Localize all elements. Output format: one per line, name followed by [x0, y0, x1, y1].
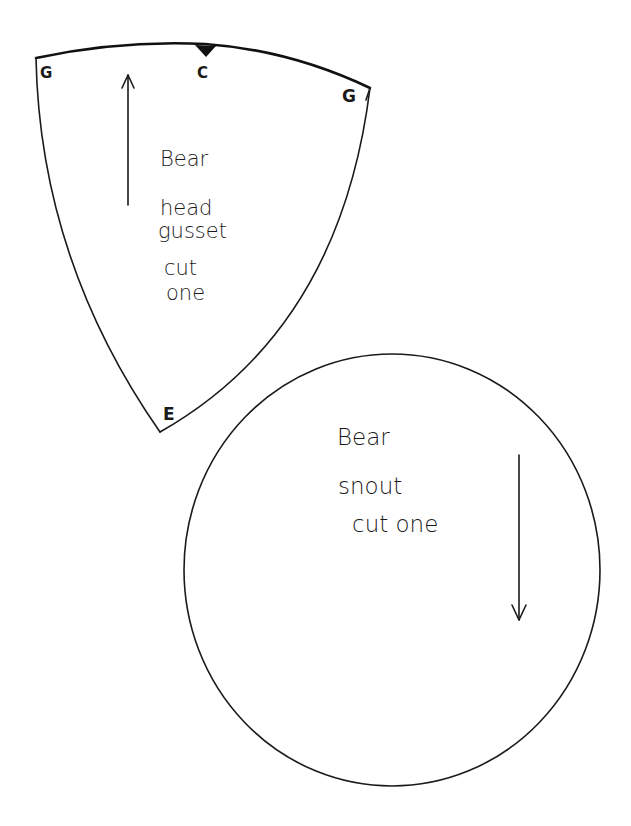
snout-piece: Bear snout cut one	[184, 354, 600, 786]
gusset-grainline-arrow	[122, 75, 134, 205]
gusset-label-line-1: Bear	[160, 147, 209, 171]
center-notch-marker	[195, 45, 216, 57]
mark-c-center: C	[197, 64, 208, 82]
mark-e-bottom: E	[163, 404, 175, 424]
snout-label-line-3: cut one	[352, 511, 438, 537]
snout-label-line-1: Bear	[337, 424, 390, 450]
sewing-pattern-sheet: G C G E Bear head gusset cut one Bear sn…	[0, 0, 631, 826]
gusset-label-line-4: cut	[164, 256, 197, 280]
snout-grainline-arrow	[512, 455, 526, 620]
gusset-left-edge	[36, 58, 160, 432]
mark-g-left: G	[40, 64, 52, 82]
gusset-label-line-5: one	[166, 281, 205, 305]
snout-circle-outline	[184, 354, 600, 786]
head-gusset-piece: G C G E Bear head gusset cut one	[36, 43, 370, 432]
snout-label-line-2: snout	[338, 473, 402, 499]
mark-g-right: G	[342, 86, 356, 106]
gusset-label-line-3: gusset	[158, 219, 227, 243]
gusset-label-line-2: head	[160, 196, 212, 220]
